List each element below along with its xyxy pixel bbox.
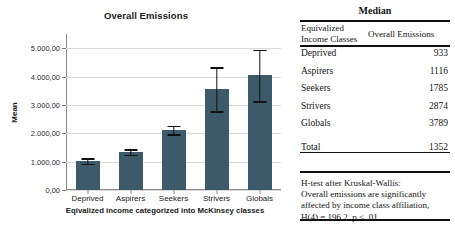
y-tick-label: 4.000,00	[31, 72, 60, 81]
y-tick-mark	[62, 190, 66, 191]
x-tick-label: Globals	[246, 194, 273, 203]
table-row: Strivers2874	[300, 100, 450, 118]
row-label: Aspirers	[301, 66, 333, 76]
y-axis-title: Mean	[10, 102, 19, 122]
y-tick-label: 5.000,00	[31, 44, 60, 53]
x-tick-label: Strivers	[203, 194, 230, 203]
row-label: Seekers	[301, 83, 331, 93]
column-header-line2: Income Classes	[301, 34, 367, 45]
x-tick-label: Seekers	[159, 194, 188, 203]
row-value: 1785	[429, 83, 448, 93]
row-label: Strivers	[301, 101, 331, 111]
x-tick-label: Aspirers	[116, 194, 145, 203]
x-tick-label: Deprived	[71, 194, 103, 203]
bar	[76, 161, 100, 190]
x-axis-title: Eqivalized income categorized into McKin…	[40, 206, 290, 215]
error-bar-cap-upper	[210, 67, 223, 68]
bar-group: Deprived	[66, 34, 109, 190]
chart-title: Overall Emissions	[0, 10, 292, 21]
footnote-line: H-test after Kruskal-Wallis:	[301, 178, 450, 189]
table-row: Seekers1785	[300, 82, 450, 100]
bar-group: Aspirers	[109, 34, 152, 190]
bar-group: Seekers	[152, 34, 195, 190]
chart-panel: Overall Emissions Mean 0,001.000,002.000…	[0, 0, 292, 236]
row-label: Globals	[301, 118, 331, 128]
row-value: 933	[434, 48, 448, 58]
table-rule-total	[300, 152, 450, 153]
table-row: Globals3789	[300, 117, 450, 135]
error-bar-cap-lower	[81, 164, 94, 165]
column-header-line1: Equivalized	[301, 23, 367, 34]
bar-group: Strivers	[195, 34, 238, 190]
median-table: Median Equivalized Income Classes Overal…	[300, 0, 450, 236]
column-header-overall-emissions: Overall Emissions	[368, 29, 449, 39]
error-bar-cap-lower	[253, 101, 266, 102]
error-bar-cap-upper	[253, 50, 266, 51]
footnote-line: Overall emissions are significantly	[301, 189, 450, 200]
row-value: 3789	[429, 118, 448, 128]
row-label: Deprived	[301, 48, 336, 58]
error-bar-cap-upper	[124, 149, 137, 150]
y-tick-label: 1.000,00	[31, 157, 60, 166]
table-footnote: H-test after Kruskal-Wallis:Overall emis…	[301, 178, 450, 223]
table-rule-top	[300, 20, 450, 22]
table-row: Aspirers1116	[300, 65, 450, 83]
bar-group: Globals	[238, 34, 281, 190]
error-bar-cap-lower	[210, 111, 223, 112]
row-value: 1116	[430, 66, 448, 76]
table-caption: Median	[300, 5, 450, 16]
total-value: 1352	[429, 142, 448, 152]
column-header-income-classes: Equivalized Income Classes	[301, 23, 367, 44]
error-bar-cap-lower	[167, 134, 180, 135]
plot-area: 0,001.000,002.000,003.000,004.000,005.00…	[66, 34, 281, 190]
table-row: Deprived933	[300, 47, 450, 65]
error-bar-line	[259, 50, 260, 102]
row-value: 2874	[429, 101, 448, 111]
table-row-total: Total1352	[300, 141, 450, 159]
error-bar-cap-lower	[124, 155, 137, 156]
table-rule-body-end	[300, 171, 450, 173]
bar	[162, 130, 186, 190]
error-bar-cap-upper	[81, 158, 94, 159]
total-label: Total	[301, 142, 320, 152]
y-tick-label: 2.000,00	[31, 129, 60, 138]
footnote-line: affected by income class affiliation,	[301, 200, 450, 211]
bar	[119, 152, 143, 190]
footnote-line: H(4) = 196.2, p < .01.	[301, 212, 450, 223]
error-bar-line	[216, 67, 217, 111]
table-rule-bottom	[300, 219, 450, 221]
error-bar-cap-upper	[167, 126, 180, 127]
y-tick-label: 0,00	[45, 186, 60, 195]
y-tick-label: 3.000,00	[31, 100, 60, 109]
